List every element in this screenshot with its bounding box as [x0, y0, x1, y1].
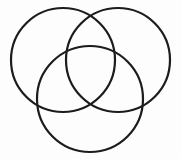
venn-diagram-figure: [0, 0, 181, 159]
venn-diagram-canvas: [0, 0, 181, 159]
